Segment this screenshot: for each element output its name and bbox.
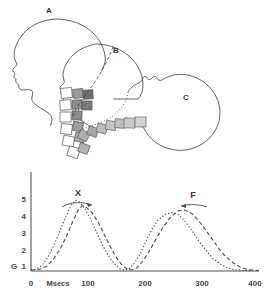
vertebra-arc-horizontal <box>77 117 146 142</box>
y-tick-4: 4 <box>22 212 27 221</box>
x-axis-label: Msecs <box>47 279 70 288</box>
label-b: B <box>113 46 119 55</box>
annotation-x-label: X <box>75 188 81 198</box>
y-axis-label-g: G <box>11 262 17 271</box>
head-diagram <box>13 19 220 150</box>
annotation-f-label: F <box>190 190 196 200</box>
y-tick-2: 2 <box>22 246 27 255</box>
y-tick-labels: 5 4 3 2 1 G <box>11 195 27 271</box>
x-tick-300: 300 <box>195 279 209 288</box>
curve-f <box>31 206 259 271</box>
y-tick-1: 1 <box>22 262 27 271</box>
label-a: A <box>46 6 52 15</box>
figure-root: A B C 5 4 3 2 1 G 0 100 200 300 400 Msec… <box>0 0 268 302</box>
curve-x <box>31 200 250 270</box>
y-tick-5: 5 <box>22 195 27 204</box>
vertebra-arc-vertical <box>60 87 94 158</box>
y-tick-3: 3 <box>22 229 27 238</box>
head-profile-c <box>126 74 220 150</box>
label-c: C <box>183 93 189 102</box>
annotation-f-arrowhead <box>181 204 186 208</box>
x-tick-labels: 0 100 200 300 400 Msecs <box>29 279 262 288</box>
x-tick-400: 400 <box>248 279 262 288</box>
x-tick-200: 200 <box>138 279 152 288</box>
annotation-x-arrowhead <box>87 203 92 207</box>
x-tick-0: 0 <box>29 279 34 288</box>
x-tick-100: 100 <box>81 279 95 288</box>
curve-annotations: X F <box>62 188 207 208</box>
chart: 5 4 3 2 1 G 0 100 200 300 400 Msecs X F <box>11 172 262 288</box>
